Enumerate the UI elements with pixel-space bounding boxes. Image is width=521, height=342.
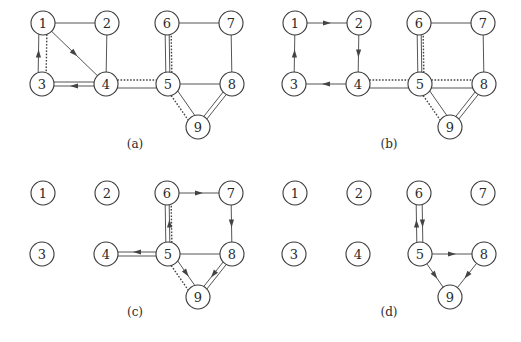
- node-1-panel-a: 1: [31, 11, 55, 35]
- node-label: 8: [480, 247, 488, 262]
- edge-8-9-double: [456, 92, 478, 119]
- node-3-panel-d: 3: [282, 242, 306, 266]
- arrowhead-icon: [133, 249, 141, 254]
- node-label: 4: [102, 77, 110, 92]
- node-3-panel-c: 3: [30, 242, 54, 266]
- node-label: 6: [415, 16, 423, 31]
- node-5-panel-b: 5: [408, 72, 432, 96]
- node-8-panel-c: 8: [220, 242, 244, 266]
- panel-label-b: (b): [380, 137, 397, 151]
- node-label: 1: [291, 186, 299, 201]
- node-5-panel-d: 5: [408, 242, 432, 266]
- panel-label-c: (c): [127, 305, 143, 319]
- node-8-panel-a: 8: [220, 72, 244, 96]
- node-label: 2: [103, 186, 111, 201]
- edge-8-9-plain: [457, 263, 476, 287]
- node-label: 7: [479, 186, 487, 201]
- node-8-panel-d: 8: [472, 242, 496, 266]
- edge-8-9-double-arrow: [204, 262, 226, 289]
- node-1-panel-d: 1: [283, 181, 307, 205]
- node-7-panel-c: 7: [219, 181, 243, 205]
- node-2-panel-d: 2: [347, 181, 371, 205]
- node-label: 9: [194, 290, 202, 305]
- arrowhead-icon: [323, 20, 331, 25]
- node-7-panel-d: 7: [471, 181, 495, 205]
- edge-6-5-plain: [420, 205, 425, 243]
- node-6-panel-d: 6: [407, 181, 431, 205]
- node-6-panel-a: 6: [155, 11, 179, 35]
- panel-a: [36, 23, 232, 120]
- edge-4-3-plain: [306, 81, 346, 86]
- panel-b: [292, 20, 484, 120]
- node-label: 7: [227, 16, 235, 31]
- node-label: 7: [479, 16, 487, 31]
- arrowhead-icon: [36, 49, 41, 57]
- node-label: 5: [416, 247, 424, 262]
- node-label: 8: [480, 77, 488, 92]
- node-7-panel-a: 7: [219, 11, 243, 35]
- edge-1-3-dotted: [46, 34, 47, 72]
- panel-label-a: (a): [127, 137, 144, 151]
- node-label: 9: [194, 120, 202, 135]
- node-label: 8: [228, 77, 236, 92]
- nodes-layer: 123456789123456789123456789123456789: [30, 11, 496, 309]
- edge-8-9-double: [204, 92, 226, 119]
- edge-5-6-plain: [414, 205, 419, 243]
- edge-1-2-plain: [307, 20, 347, 25]
- node-label: 3: [38, 247, 46, 262]
- edge-7-8-plain: [483, 35, 484, 72]
- node-label: 1: [39, 186, 47, 201]
- node-2-panel-c: 2: [95, 181, 119, 205]
- node-label: 9: [446, 290, 454, 305]
- edge-7-8-plain: [229, 205, 234, 242]
- arrowhead-icon: [322, 81, 330, 86]
- panel-label-d: (d): [380, 305, 397, 319]
- node-4-panel-b: 4: [346, 72, 370, 96]
- node-6-panel-c: 6: [155, 181, 179, 205]
- node-5-panel-a: 5: [156, 72, 180, 96]
- arrowhead-icon: [420, 219, 425, 227]
- edge-2-4-plain: [356, 35, 361, 72]
- edge-5-6-dotted: [171, 204, 172, 242]
- node-1-panel-b: 1: [283, 11, 307, 35]
- panel-c: [118, 190, 234, 290]
- edge-5-9-dotted: [423, 96, 440, 120]
- edge-5-6-double: [165, 35, 170, 72]
- node-8-panel-b: 8: [472, 72, 496, 96]
- node-label: 4: [102, 247, 110, 262]
- node-label: 2: [355, 16, 363, 31]
- node-label: 4: [354, 247, 362, 262]
- node-label: 2: [103, 16, 111, 31]
- node-label: 5: [416, 77, 424, 92]
- node-label: 3: [38, 77, 46, 92]
- node-label: 3: [290, 77, 298, 92]
- node-label: 9: [446, 120, 454, 135]
- arrowhead-icon: [70, 83, 78, 88]
- arrowhead-icon: [356, 50, 361, 58]
- edge-2-4-plain: [106, 35, 107, 72]
- edge-3-1-plain: [292, 35, 297, 72]
- node-5-panel-c: 5: [156, 242, 180, 266]
- arrowhead-icon: [292, 50, 297, 58]
- arrowhead-icon: [431, 271, 438, 279]
- edge-5-6-double: [417, 35, 422, 72]
- node-label: 4: [354, 77, 362, 92]
- node-2-panel-a: 2: [95, 11, 119, 35]
- edge-5-4-double-arrow: [118, 249, 156, 256]
- edge-7-8-plain: [231, 35, 232, 72]
- edge-5-9-plain: [427, 264, 443, 287]
- node-9-panel-b: 9: [438, 115, 462, 139]
- node-label: 5: [164, 247, 172, 262]
- edge-5-6-dotted: [171, 34, 172, 72]
- node-9-panel-c: 9: [186, 285, 210, 309]
- panel-labels-layer: (a)(b)(c)(d): [127, 137, 398, 319]
- node-4-panel-d: 4: [346, 242, 370, 266]
- arrowhead-icon: [229, 220, 234, 228]
- node-label: 8: [228, 247, 236, 262]
- node-2-panel-b: 2: [347, 11, 371, 35]
- node-label: 5: [164, 77, 172, 92]
- edge-5-9-plain: [178, 91, 195, 115]
- edge-6-7-plain: [179, 190, 219, 195]
- node-3-panel-b: 3: [282, 72, 306, 96]
- node-3-panel-a: 3: [30, 72, 54, 96]
